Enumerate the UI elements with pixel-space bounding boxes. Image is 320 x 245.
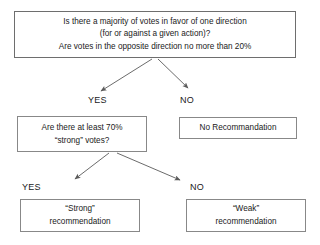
node-no-recommendation-label: No Recommandation	[200, 122, 277, 134]
node-strong-recommendation-line-2: recommendation	[50, 216, 111, 229]
node-strong-votes-question: Are there at least 70% “strong” votes?	[17, 116, 147, 152]
edge-votes-no-arrow	[117, 153, 180, 180]
edge-label-votes-yes: YES	[22, 182, 41, 192]
node-weak-recommendation-line-1: “Weak”	[233, 203, 259, 216]
node-root-line-1: Is there a majority of votes in favor of…	[63, 16, 246, 29]
edge-label-votes-no: NO	[190, 182, 204, 192]
node-strong-votes-line-1: Are there at least 70%	[41, 121, 122, 134]
edge-label-root-yes: YES	[88, 95, 107, 105]
node-strong-recommendation: “Strong” recommendation	[20, 199, 140, 232]
flowchart-canvas: Is there a majority of votes in favor of…	[0, 0, 320, 245]
edge-label-root-no: NO	[180, 95, 194, 105]
edge-root-yes-arrow	[101, 59, 152, 91]
node-root-line-2: (for or against a given action)?	[100, 28, 211, 41]
node-strong-votes-line-2: “strong” votes?	[55, 134, 110, 147]
node-weak-recommendation: “Weak” recommendation	[186, 199, 306, 232]
edge-votes-yes-arrow	[75, 153, 109, 179]
node-weak-recommendation-line-2: recommendation	[216, 216, 277, 229]
node-strong-recommendation-line-1: “Strong”	[65, 203, 95, 216]
node-root-question: Is there a majority of votes in favor of…	[14, 11, 296, 58]
edge-root-no-arrow	[158, 59, 188, 88]
node-no-recommendation: No Recommandation	[179, 117, 297, 139]
node-root-line-3: Are votes in the opposite direction no m…	[59, 41, 252, 54]
